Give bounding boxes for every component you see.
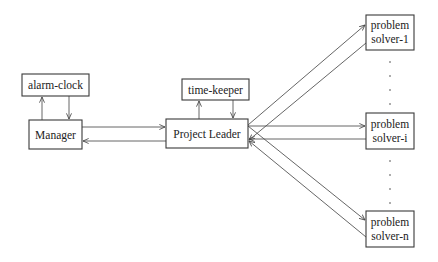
node-label: Project Leader: [173, 128, 241, 141]
ellipsis-dots-upper: [389, 61, 391, 105]
node-label-line-2: solver-n: [371, 230, 409, 242]
node-time-keeper: time-keeper: [182, 79, 249, 100]
ellipsis-dots-lower: [389, 160, 391, 204]
edge-project-leader-to-solver-n: [248, 126, 365, 220]
node-project-leader: Project Leader: [166, 119, 248, 148]
node-label-line-1: problem: [371, 19, 409, 32]
node-label: alarm-clock: [28, 79, 83, 91]
node-label: time-keeper: [188, 84, 243, 97]
node-solver-1: problem solver-1: [366, 15, 414, 50]
node-label-line-2: solver-1: [371, 33, 409, 45]
node-label-line-1: problem: [371, 118, 409, 131]
node-alarm-clock: alarm-clock: [22, 74, 89, 96]
edge-project-leader-to-solver-1: [248, 25, 365, 125]
edge-solver-n-to-project-leader: [249, 141, 366, 237]
diagram-canvas: alarm-clock Manager time-keeper Project …: [0, 0, 438, 262]
node-manager: Manager: [29, 120, 82, 149]
node-solver-i: problem solver-i: [366, 113, 414, 149]
node-label-line-1: problem: [371, 216, 409, 229]
node-solver-n: problem solver-n: [366, 211, 414, 247]
edge-solver-1-to-project-leader: [249, 43, 366, 140]
node-label-line-2: solver-i: [373, 132, 408, 144]
node-label: Manager: [35, 129, 76, 142]
